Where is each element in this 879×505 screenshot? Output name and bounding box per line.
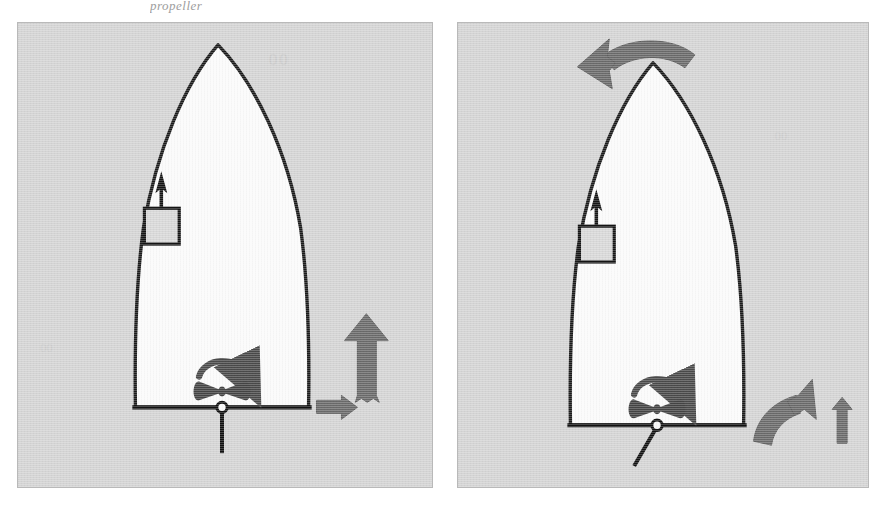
diagram-panel-right: 00 (457, 22, 869, 488)
forward-thrust-arrow (832, 397, 852, 443)
svg-text:00: 00 (269, 50, 290, 69)
lateral-drift-arrow (317, 395, 358, 419)
forward-thrust-arrow (344, 314, 388, 403)
bow-thruster-box (579, 226, 614, 262)
diagram-panel-left: 00 00 (17, 22, 433, 488)
bow-swing-arrow (577, 39, 694, 89)
svg-text:00: 00 (40, 340, 53, 355)
figure-root: propeller 00 00 (0, 0, 879, 505)
svg-text:00: 00 (774, 128, 787, 143)
rudder-blade (634, 428, 656, 466)
panel-left-graphic: 00 00 (18, 23, 432, 487)
figure-caption-top: propeller (150, 0, 470, 16)
rudder-pivot (217, 402, 227, 412)
rudder (217, 402, 227, 453)
scan-ghost-marks: 00 (774, 128, 787, 143)
stern-thrust-curved-arrow (754, 379, 817, 445)
bow-thruster-box (144, 208, 179, 244)
panel-right-graphic: 00 (458, 23, 868, 487)
rudder-pivot (652, 420, 662, 430)
